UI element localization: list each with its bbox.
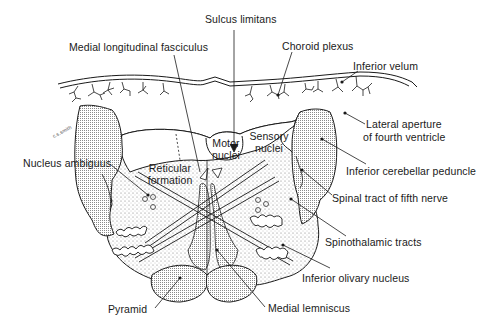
label-medial-lemniscus: Medial lemniscus — [268, 302, 350, 314]
label-sulcus-limitans: Sulcus limitans — [205, 13, 277, 25]
label-pyramid: Pyramid — [108, 303, 147, 315]
label-inferior-velum: Inferior velum — [353, 60, 418, 72]
label-nucleus-ambiguus: Nucleus ambiguus — [23, 157, 111, 169]
label-spinothalamic-tracts: Spinothalamic tracts — [325, 236, 422, 248]
right-pyramid — [206, 265, 256, 302]
label-spinal-tract-fifth-nerve: Spinal tract of fifth nerve — [332, 192, 448, 204]
label-motor-nuclei-1: Motor — [207, 137, 245, 149]
label-choroid-plexus: Choroid plexus — [282, 40, 353, 52]
right-inferior-cerebellar-peduncle — [292, 109, 337, 224]
label-inferior-olivary-nucleus: Inferior olivary nucleus — [302, 272, 409, 284]
label-medial-longitudinal-fasciculus: Medial longitudinal fasciculus — [69, 41, 208, 53]
label-sensory-nuclei-2: nuclei — [244, 142, 294, 154]
label-reticular-formation-2: formation — [146, 174, 194, 186]
label-inferior-cerebellar-peduncle: Inferior cerebellar peduncle — [346, 165, 476, 177]
label-motor-nuclei-2: nuclei — [207, 149, 245, 161]
inferior-velum — [58, 72, 417, 88]
lateral-aperture-leader — [345, 113, 365, 124]
label-lateral-aperture-1: Lateral aperture — [366, 118, 442, 130]
label-lateral-aperture-2: of fourth ventricle — [363, 131, 445, 143]
left-pyramid — [151, 265, 207, 302]
label-sensory-nuclei-1: Sensory — [244, 130, 294, 142]
choroid-plexus-leader — [278, 52, 292, 95]
label-reticular-formation-1: Reticular — [146, 162, 194, 174]
